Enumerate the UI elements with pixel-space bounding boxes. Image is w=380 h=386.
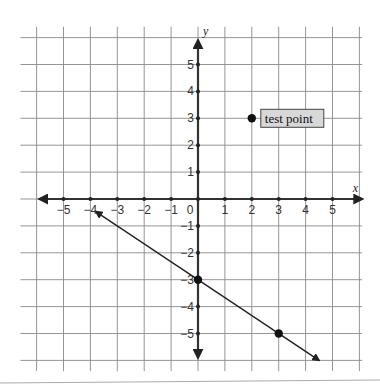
test-point-label: test point bbox=[265, 111, 313, 126]
coordinate-plane: −5−4−3−2−1012345−5−4−3−2−112345xy test p… bbox=[0, 0, 380, 386]
x-tick-mark bbox=[250, 197, 254, 201]
x-tick-mark bbox=[142, 197, 146, 201]
graphed-line bbox=[96, 212, 319, 361]
y-tick-mark bbox=[196, 63, 200, 67]
x-tick-mark bbox=[169, 197, 173, 201]
y-tick-mark bbox=[196, 143, 200, 147]
y-tick-mark bbox=[196, 332, 200, 336]
x-tick-label: 3 bbox=[275, 203, 282, 217]
x-tick-label: −4 bbox=[84, 203, 98, 217]
x-tick-label: −3 bbox=[110, 203, 124, 217]
x-tick-mark bbox=[88, 197, 92, 201]
y-tick-mark bbox=[196, 305, 200, 309]
y-tick-mark bbox=[196, 170, 200, 174]
y-tick-label: 4 bbox=[187, 84, 194, 98]
x-tick-mark bbox=[115, 197, 119, 201]
x-tick-label: −5 bbox=[57, 203, 71, 217]
coordinate-plane-figure: −5−4−3−2−1012345−5−4−3−2−112345xy test p… bbox=[0, 0, 380, 386]
x-axis-label: x bbox=[352, 181, 359, 195]
x-tick-label: −1 bbox=[164, 203, 178, 217]
y-tick-label: −5 bbox=[180, 327, 194, 341]
x-tick-label: 1 bbox=[222, 203, 229, 217]
y-tick-label: −3 bbox=[180, 273, 194, 287]
line-point bbox=[275, 329, 283, 337]
line-point bbox=[194, 276, 202, 284]
y-tick-label: −1 bbox=[180, 219, 194, 233]
x-tick-label: 4 bbox=[302, 203, 309, 217]
x-tick-mark bbox=[62, 197, 66, 201]
y-tick-label: 5 bbox=[187, 58, 194, 72]
y-tick-label: 2 bbox=[187, 138, 194, 152]
x-tick-label: 2 bbox=[248, 203, 255, 217]
test-point bbox=[248, 114, 256, 122]
x-tick-mark bbox=[304, 197, 308, 201]
y-axis-label: y bbox=[202, 24, 209, 38]
y-tick-mark bbox=[196, 116, 200, 120]
y-tick-mark bbox=[196, 89, 200, 93]
page-edge-divider bbox=[0, 380, 380, 383]
y-tick-label: 1 bbox=[187, 165, 194, 179]
x-tick-label: −2 bbox=[137, 203, 151, 217]
x-tick-label: 5 bbox=[329, 203, 336, 217]
y-tick-label: 3 bbox=[187, 111, 194, 125]
x-tick-mark bbox=[196, 197, 200, 201]
x-tick-label: 0 bbox=[187, 203, 194, 217]
y-tick-label: −2 bbox=[180, 246, 194, 260]
y-tick-mark bbox=[196, 251, 200, 255]
x-tick-mark bbox=[223, 197, 227, 201]
x-tick-mark bbox=[331, 197, 335, 201]
y-tick-label: −4 bbox=[180, 300, 194, 314]
y-tick-mark bbox=[196, 224, 200, 228]
x-tick-mark bbox=[277, 197, 281, 201]
